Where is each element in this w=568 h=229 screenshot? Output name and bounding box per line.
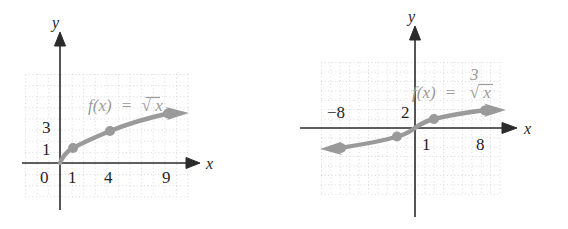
y-axis-label: y — [50, 14, 60, 32]
x-tick-label-neg8: −8 — [327, 103, 345, 122]
svg-text:f(x) = √: f(x) = √ x — [412, 83, 491, 102]
fn-label-fx: f(x) — [88, 96, 112, 115]
x-tick-label-1: 1 — [68, 168, 77, 187]
y-axis-arrowhead — [55, 32, 66, 46]
data-point-neg1-neg1 — [392, 132, 402, 142]
radical-functions-figure: y x 0 1 3 1 4 9 f(x) = √ x — [0, 0, 568, 229]
radical-index-3: 3 — [469, 65, 479, 84]
x-tick-label-4: 4 — [104, 168, 113, 187]
y-tick-label-3: 3 — [42, 118, 51, 137]
fn-label-radical: √ — [142, 96, 152, 115]
x-axis-arrowhead — [502, 123, 517, 134]
fn-label-equals: = — [446, 83, 456, 102]
data-point-8-2 — [480, 106, 490, 116]
curve-path — [60, 114, 168, 164]
data-point-9-3 — [163, 109, 173, 119]
x-tick-label-8: 8 — [476, 135, 485, 154]
fn-label-radicand: x — [482, 83, 491, 102]
svg-text:f(x) = √: f(x) = √ x — [88, 96, 163, 115]
square-root-graph-panel: y x 0 1 3 1 4 9 f(x) = √ x — [0, 0, 284, 229]
data-point-neg8-neg2 — [336, 143, 346, 153]
function-label-sqrt: f(x) = √ x — [88, 96, 163, 115]
data-point-1-1 — [429, 114, 439, 124]
x-axis-label: x — [205, 155, 213, 172]
cube-root-graph-panel: y x −8 8 2 1 f(x) = √ x 3 — [284, 0, 568, 229]
fn-label-radicand: x — [154, 96, 163, 115]
x-axis-arrowhead — [186, 158, 200, 169]
fn-label-radical: √ — [470, 83, 480, 102]
y-tick-label-1: 1 — [42, 140, 51, 159]
data-point-1-1 — [68, 143, 78, 153]
data-point-4-2 — [105, 126, 115, 136]
y-axis-arrowhead — [410, 26, 421, 40]
x-axis-label: x — [523, 120, 531, 137]
origin-tick-label: 0 — [40, 168, 49, 187]
fn-label-equals: = — [122, 96, 132, 115]
y-tick-label-2: 2 — [401, 103, 410, 122]
y-axis-label: y — [406, 8, 416, 26]
x-tick-label-9: 9 — [162, 168, 171, 187]
square-root-curve — [60, 107, 189, 163]
y-tick-label-1: 1 — [422, 135, 431, 154]
fn-label-fx: f(x) — [412, 83, 436, 102]
function-label-cbrt: f(x) = √ x 3 — [412, 65, 493, 102]
curve-path — [340, 110, 486, 148]
